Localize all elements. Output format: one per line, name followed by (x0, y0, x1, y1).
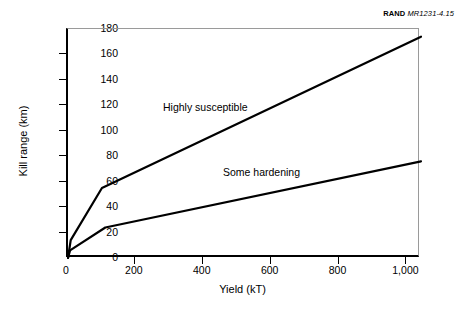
y-tick-mark (59, 79, 66, 80)
x-axis-title: Yield (kT) (66, 283, 419, 295)
y-tick-mark (59, 130, 66, 131)
x-tick-label: 600 (240, 264, 300, 276)
y-tick-mark (59, 181, 66, 182)
rand-brand-label: RAND (383, 9, 405, 18)
x-tick-mark (202, 257, 203, 264)
x-tick-label: 800 (308, 264, 368, 276)
series-label-some-hardening: Some hardening (223, 166, 300, 178)
x-tick-label: 0 (36, 264, 96, 276)
y-tick-mark (59, 53, 66, 54)
x-tick-mark (134, 257, 135, 264)
x-tick-mark (338, 257, 339, 264)
chart-figure: RAND MR1231-4.15 02040608010012014016018… (0, 0, 464, 310)
rand-credit: RAND MR1231-4.15 (383, 9, 454, 19)
x-tick-mark (270, 257, 271, 264)
plot-area (66, 28, 419, 257)
y-axis-title: Kill range (km) (17, 51, 29, 231)
y-tick-mark (59, 155, 66, 156)
y-tick-mark (59, 232, 66, 233)
series-canvas (68, 29, 421, 258)
x-tick-label: 1,000 (375, 264, 435, 276)
x-tick-label: 400 (172, 264, 232, 276)
x-tick-label: 200 (104, 264, 164, 276)
rand-document-code: MR1231-4.15 (407, 9, 454, 18)
y-tick-mark (59, 206, 66, 207)
x-tick-mark (405, 257, 406, 264)
y-tick-mark (59, 104, 66, 105)
series-label-highly-susceptible: Highly susceptible (163, 101, 248, 113)
